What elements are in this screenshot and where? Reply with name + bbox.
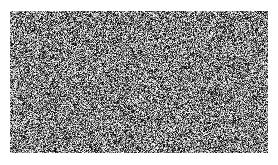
figure-root: [0, 0, 278, 165]
noise-image: [10, 11, 268, 153]
